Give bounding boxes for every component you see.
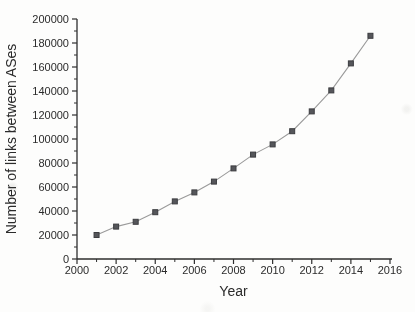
x-tick-label: 2016: [378, 264, 402, 276]
data-series-line: [97, 36, 371, 235]
data-point-marker: [290, 129, 295, 134]
y-tick-label: 140000: [32, 85, 69, 97]
data-point-marker: [329, 88, 334, 93]
x-tick-label: 2014: [339, 264, 363, 276]
y-tick-label: 120000: [32, 109, 69, 121]
data-point-marker: [94, 233, 99, 238]
data-point-marker: [153, 210, 158, 215]
y-tick-label: 200000: [32, 13, 69, 25]
data-point-marker: [368, 33, 373, 38]
data-point-marker: [211, 179, 216, 184]
y-tick-label: 40000: [38, 205, 69, 217]
x-axis-title: Year: [219, 283, 248, 299]
y-tick-label: 80000: [38, 157, 69, 169]
data-point-marker: [133, 219, 138, 224]
y-tick-label: 100000: [32, 133, 69, 145]
x-tick-label: 2004: [143, 264, 167, 276]
x-tick-label: 2010: [260, 264, 284, 276]
as-links-growth-chart: 2000200220042006200820102012201420160200…: [0, 0, 415, 312]
x-tick-label: 2008: [221, 264, 245, 276]
x-tick-label: 2002: [104, 264, 128, 276]
x-tick-label: 2012: [300, 264, 324, 276]
y-tick-label: 60000: [38, 181, 69, 193]
y-tick-label: 180000: [32, 37, 69, 49]
data-point-marker: [172, 199, 177, 204]
data-point-marker: [114, 224, 119, 229]
y-tick-label: 20000: [38, 229, 69, 241]
y-axis-title: Number of links between ASes: [3, 44, 19, 235]
y-tick-label: 160000: [32, 61, 69, 73]
data-point-marker: [192, 190, 197, 195]
data-point-marker: [270, 142, 275, 147]
data-point-marker: [231, 166, 236, 171]
data-point-marker: [251, 152, 256, 157]
chart-canvas: 2000200220042006200820102012201420160200…: [0, 0, 415, 312]
y-tick-label: 0: [63, 253, 69, 265]
x-tick-label: 2000: [65, 264, 89, 276]
x-tick-label: 2006: [182, 264, 206, 276]
data-point-marker: [309, 109, 314, 114]
data-point-marker: [348, 61, 353, 66]
